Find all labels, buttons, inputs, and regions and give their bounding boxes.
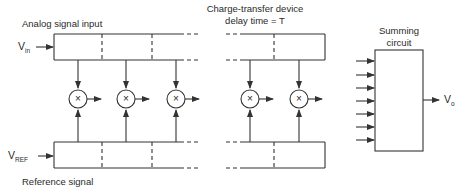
vo-label: Vo <box>444 93 455 107</box>
multiplier-5-symbol: × <box>293 93 305 105</box>
top-delay-line-left <box>54 34 201 60</box>
reference-signal-label: Reference signal <box>22 176 93 188</box>
summing-line2: circuit <box>369 37 429 49</box>
vo-sub: o <box>451 100 455 107</box>
multiplier-4-symbol: × <box>244 93 256 105</box>
multiplier-3-symbol: × <box>170 93 182 105</box>
ctd-title-line2: delay time = T <box>180 15 330 27</box>
vo-main: V <box>444 93 451 105</box>
analog-signal-input-label: Analog signal input <box>22 18 102 30</box>
summing-circuit-box <box>375 50 423 151</box>
vin-label: Vin <box>18 40 30 54</box>
vref-sub: REF <box>15 156 28 163</box>
multiplier-taps <box>69 60 322 142</box>
bottom-delay-line-right <box>226 142 325 168</box>
vref-label: VREF <box>8 149 28 163</box>
summing-line1: Summing <box>369 25 429 37</box>
vin-main: V <box>18 40 25 52</box>
bottom-delay-line-left <box>54 142 201 168</box>
vref-main: V <box>8 149 15 161</box>
multiplier-2-symbol: × <box>120 93 132 105</box>
summing-circuit-label: Summing circuit <box>369 25 429 49</box>
vin-sub: in <box>25 47 30 54</box>
multiplier-1-symbol: × <box>72 93 84 105</box>
ctd-title-line1: Charge-transfer device <box>180 3 330 15</box>
summing-inputs <box>356 61 374 140</box>
top-delay-line-right <box>226 34 325 60</box>
ctd-title: Charge-transfer device delay time = T <box>180 3 330 27</box>
